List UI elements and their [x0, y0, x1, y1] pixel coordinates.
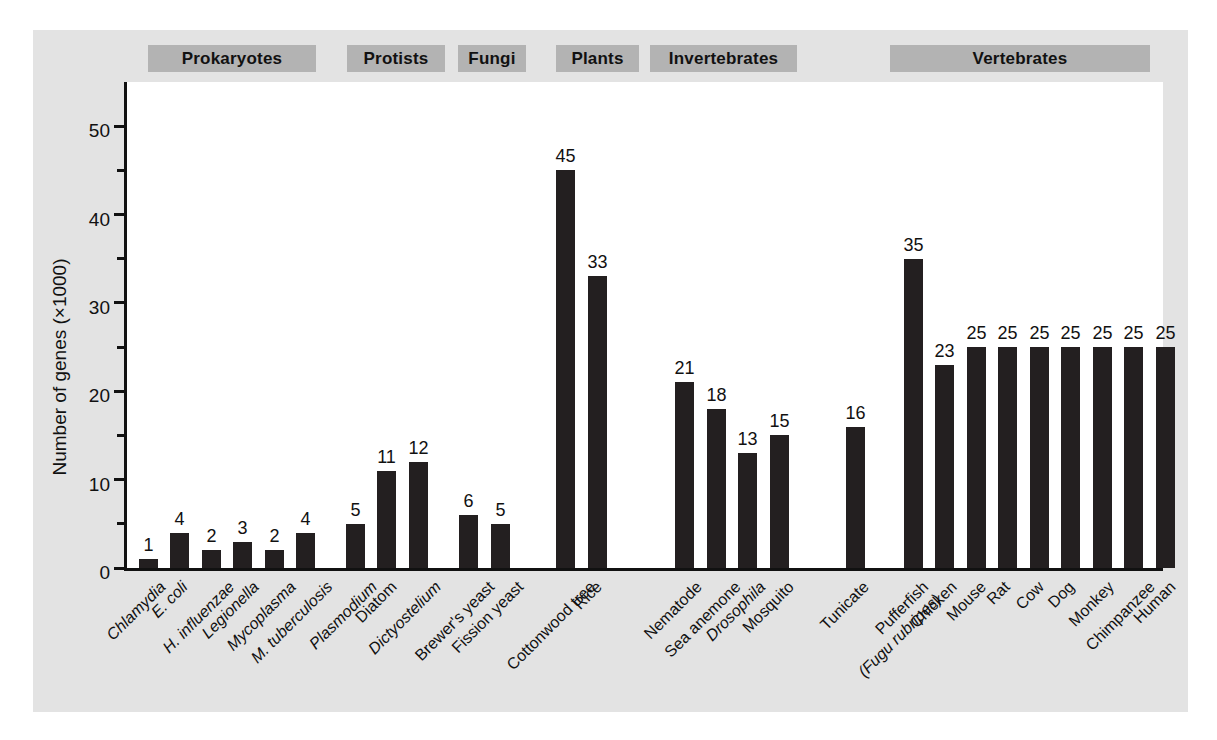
bar-value-label: 18 [697, 385, 736, 406]
y-tick-label: 20 [89, 385, 110, 407]
x-axis-tick-labels: ChlamydiaE. coliH. influenzaeLegionellaM… [124, 574, 1163, 714]
x-tick-label: Rat [983, 578, 1013, 608]
bar-fission-yeast[interactable] [491, 524, 510, 568]
x-tick-label-line1: Cow [1013, 578, 1048, 613]
bar-dog[interactable] [1061, 347, 1080, 568]
bar-e-coli[interactable] [170, 533, 189, 568]
y-axis-tick-labels: 01020304050 [46, 82, 110, 571]
bar-mouse[interactable] [967, 347, 986, 568]
y-tick-major [114, 478, 125, 481]
bar-human[interactable] [1156, 347, 1175, 568]
bar-mosquito[interactable] [770, 435, 789, 568]
y-tick-label: 10 [89, 474, 110, 496]
bar-m-tuberculosis[interactable] [296, 533, 315, 568]
y-tick-minor [117, 169, 125, 172]
bar-value-label: 35 [894, 235, 933, 256]
chart-figure: ProkaryotesProtistsFungiPlantsInvertebra… [0, 0, 1217, 740]
group-band-label: Protists [364, 49, 429, 69]
bar-chicken[interactable] [935, 365, 954, 568]
plot-area: 1423245111265453321181315163523252525252… [124, 82, 1163, 571]
bar-chimpanzee[interactable] [1124, 347, 1143, 568]
group-band-protists: Protists [347, 45, 445, 72]
group-band-plants: Plants [556, 45, 639, 72]
group-band-fungi: Fungi [458, 45, 526, 72]
y-tick-major [114, 390, 125, 393]
bar-monkey[interactable] [1093, 347, 1112, 568]
group-band-vertebrates: Vertebrates [890, 45, 1150, 72]
bar-value-label: 1 [129, 535, 168, 556]
group-band-invertebrates: Invertebrates [650, 45, 797, 72]
x-tick-label-line1: Tunicate [817, 578, 872, 633]
y-tick-minor [117, 257, 125, 260]
bar-value-label: 5 [481, 500, 520, 521]
bar-plasmodium[interactable] [346, 524, 365, 568]
y-tick-minor [117, 522, 125, 525]
group-band-label: Invertebrates [669, 49, 778, 69]
x-tick-label: Tunicate [817, 578, 873, 634]
y-tick-label: 50 [89, 120, 110, 142]
x-tick-label: Dog [1045, 578, 1078, 611]
bar-cow[interactable] [1030, 347, 1049, 568]
y-tick-minor [117, 434, 125, 437]
y-tick-major [114, 567, 125, 570]
bar-value-label: 33 [578, 252, 617, 273]
bar-chlamydia[interactable] [139, 559, 158, 568]
bar-value-label: 16 [836, 403, 875, 424]
bar-mycoplasma[interactable] [265, 550, 284, 568]
bar-value-label: 25 [1146, 323, 1185, 344]
y-tick-label: 40 [89, 209, 110, 231]
y-tick-label: 30 [89, 297, 110, 319]
bar-drosophila[interactable] [738, 453, 757, 568]
bar-rat[interactable] [998, 347, 1017, 568]
bar-sea-anemone[interactable] [707, 409, 726, 568]
bar-h-influenzae[interactable] [202, 550, 221, 568]
bar-value-label: 5 [336, 500, 375, 521]
bar-pufferfish[interactable] [904, 259, 923, 568]
x-tick-label-line1: Dog [1045, 578, 1078, 611]
y-tick-major [114, 301, 125, 304]
group-band-label: Plants [571, 49, 623, 69]
bar-value-label: 12 [399, 438, 438, 459]
group-band-label: Fungi [468, 49, 515, 69]
bar-value-label: 45 [546, 146, 585, 167]
bar-tunicate[interactable] [846, 427, 865, 568]
bar-dictyostelium[interactable] [409, 462, 428, 568]
bar-legionella[interactable] [233, 542, 252, 569]
group-band-label: Prokaryotes [182, 49, 282, 69]
y-tick-minor [117, 346, 125, 349]
bar-value-label: 21 [665, 358, 704, 379]
bar-brewer-s-yeast[interactable] [459, 515, 478, 568]
x-tick-label-line1: Rat [983, 578, 1013, 608]
bar-rice[interactable] [588, 276, 607, 568]
bar-value-label: 4 [286, 509, 325, 530]
y-tick-label: 0 [99, 562, 110, 584]
x-tick-label: Cow [1013, 578, 1048, 613]
bar-cottonwood-tree[interactable] [556, 170, 575, 568]
group-band-label: Vertebrates [973, 49, 1068, 69]
bar-nematode[interactable] [675, 382, 694, 568]
bar-value-label: 15 [760, 411, 799, 432]
bar-diatom[interactable] [377, 471, 396, 568]
y-tick-major [114, 213, 125, 216]
y-tick-major [114, 125, 125, 128]
group-band-prokaryotes: Prokaryotes [148, 45, 316, 72]
